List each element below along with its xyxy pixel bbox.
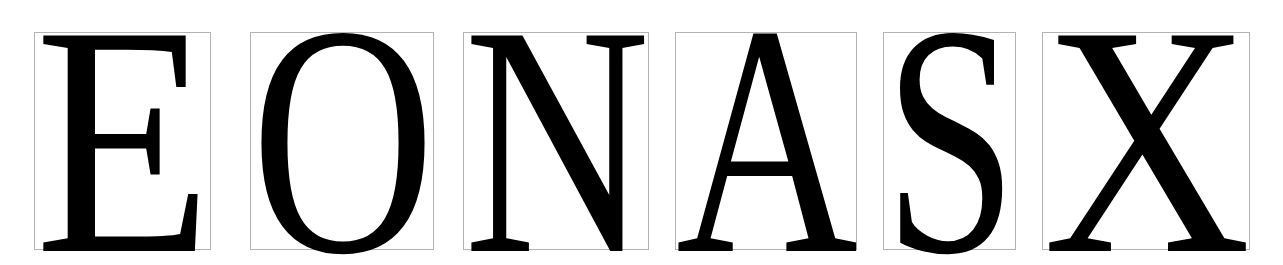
glyph-box-e: E	[34, 32, 211, 250]
glyph-letter: N	[464, 0, 650, 265]
glyph-letter: E	[35, 0, 212, 265]
glyph-box-n: N	[463, 32, 649, 250]
glyph-box-s: S	[883, 32, 1016, 250]
glyph-box-o: O	[250, 32, 434, 250]
glyph-box-a: A	[675, 32, 857, 250]
glyph-letter: S	[884, 0, 1017, 265]
glyph-letter: A	[676, 0, 858, 265]
glyph-x: X	[1043, 33, 1251, 251]
glyph-letter: O	[251, 0, 435, 265]
glyph-n: N	[464, 33, 650, 251]
glyph-e: E	[35, 33, 212, 251]
glyph-o: O	[251, 33, 435, 251]
glyph-box-x: X	[1042, 32, 1250, 250]
glyph-letter: X	[1043, 0, 1251, 265]
glyph-s: S	[884, 33, 1017, 251]
glyph-a: A	[676, 33, 858, 251]
